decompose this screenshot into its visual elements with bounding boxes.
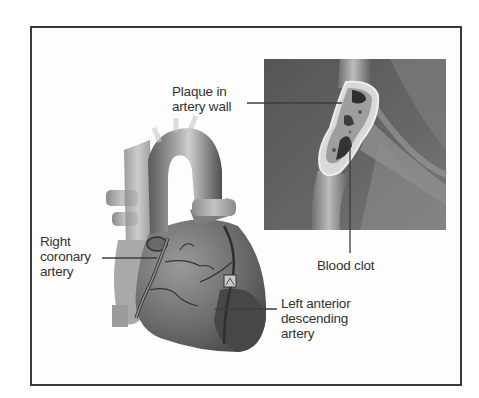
label-plaque: Plaque in artery wall [172, 84, 231, 114]
label-left-anterior-descending-artery: Left anterior descending artery [281, 296, 350, 341]
label-right-coronary-artery: Right coronary artery [40, 234, 91, 279]
artery-inset [264, 59, 446, 230]
label-blood-clot: Blood clot [317, 258, 374, 273]
illustration [0, 0, 479, 398]
heart-illustration [106, 116, 266, 352]
